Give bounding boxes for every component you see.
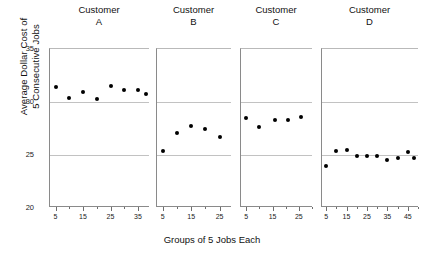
- x-tick-mark: [367, 207, 368, 211]
- x-tick-mark: [56, 207, 57, 211]
- gridline: [322, 102, 418, 103]
- x-tick-label: 25: [107, 213, 115, 220]
- panel-customer-b: 51525CustomerB: [156, 48, 231, 207]
- x-tick-label: 25: [363, 213, 371, 220]
- panel-title-line-1: Customer: [321, 4, 418, 16]
- x-tick-mark: [387, 207, 388, 211]
- panel-title: CustomerC: [240, 4, 312, 28]
- data-point: [175, 131, 179, 135]
- x-tick-label: 15: [343, 213, 351, 220]
- data-point: [136, 88, 140, 92]
- data-point: [406, 150, 410, 154]
- x-tick-mark: [357, 207, 358, 209]
- data-point: [203, 127, 207, 131]
- gridline: [50, 102, 149, 103]
- data-point: [144, 92, 148, 96]
- x-tick-label: 5: [54, 213, 58, 220]
- x-tick-mark: [83, 207, 84, 211]
- panel-title-line-1: Customer: [156, 4, 231, 16]
- data-point: [67, 96, 71, 100]
- x-tick-mark: [205, 207, 206, 209]
- x-tick-mark: [246, 207, 247, 211]
- data-point: [122, 88, 126, 92]
- data-point: [324, 164, 328, 168]
- data-point: [161, 149, 165, 153]
- x-tick-label: 15: [187, 213, 195, 220]
- x-tick-label: 35: [383, 213, 391, 220]
- x-tick-mark: [69, 207, 70, 209]
- data-point: [218, 135, 222, 139]
- x-tick-mark: [111, 207, 112, 211]
- x-tick-mark: [259, 207, 260, 209]
- x-axis-line: [50, 206, 149, 207]
- panel-title-line-2: A: [49, 16, 149, 28]
- data-point: [334, 149, 338, 153]
- panel-title: CustomerA: [49, 4, 149, 28]
- x-tick-mark: [163, 207, 164, 211]
- gridline: [241, 102, 312, 103]
- x-tick-mark: [326, 207, 327, 211]
- panel-customer-c: 51525CustomerC: [240, 48, 312, 207]
- plot-area: 5152535: [49, 48, 149, 207]
- gridline: [157, 102, 231, 103]
- x-tick-label: 15: [79, 213, 87, 220]
- data-point: [244, 116, 248, 120]
- x-axis-title: Groups of 5 Jobs Each: [0, 234, 424, 245]
- data-point: [81, 90, 85, 94]
- plot-area: 51525: [156, 48, 231, 207]
- data-point: [286, 118, 290, 122]
- x-tick-mark: [273, 207, 274, 211]
- x-tick-label: 35: [134, 213, 142, 220]
- x-tick-mark: [377, 207, 378, 209]
- y-tick-label: 30: [18, 97, 34, 106]
- x-tick-label: 5: [244, 213, 248, 220]
- data-point: [257, 125, 261, 129]
- data-point: [385, 158, 389, 162]
- x-tick-label: 45: [404, 213, 412, 220]
- y-axis-title: Average Dollar Cost of 5 Consecutive Job…: [18, 0, 41, 152]
- data-point: [299, 115, 303, 119]
- data-point: [109, 84, 113, 88]
- x-tick-mark: [191, 207, 192, 211]
- data-point: [189, 124, 193, 128]
- x-tick-mark: [312, 207, 313, 209]
- x-tick-mark: [418, 207, 419, 209]
- panel-title-line-1: Customer: [240, 4, 312, 16]
- x-tick-label: 25: [216, 213, 224, 220]
- chart-figure: Average Dollar Cost of 5 Consecutive Job…: [0, 0, 424, 253]
- panel-title: CustomerD: [321, 4, 418, 28]
- plot-area: 515253545: [321, 48, 418, 207]
- y-tick-label: 20: [18, 203, 34, 212]
- x-tick-mark: [124, 207, 125, 209]
- panel-title: CustomerB: [156, 4, 231, 28]
- x-tick-mark: [398, 207, 399, 209]
- plot-area: 51525: [240, 48, 312, 207]
- y-tick-label: 35: [18, 44, 34, 53]
- data-point: [345, 148, 349, 152]
- x-tick-mark: [220, 207, 221, 211]
- panel-customer-a: 5152535CustomerA: [49, 48, 149, 207]
- y-axis-title-line-2: 5 Consecutive Jobs: [29, 0, 41, 152]
- panel-title-line-2: D: [321, 16, 418, 28]
- x-tick-label: 15: [269, 213, 277, 220]
- x-tick-label: 5: [161, 213, 165, 220]
- x-tick-label: 25: [295, 213, 303, 220]
- data-point: [273, 118, 277, 122]
- x-axis-line: [241, 206, 312, 207]
- gridline: [241, 155, 312, 156]
- gridline: [322, 155, 418, 156]
- panel-title-line-1: Customer: [49, 4, 149, 16]
- panel-title-line-2: C: [240, 16, 312, 28]
- x-tick-mark: [97, 207, 98, 209]
- data-point: [375, 154, 379, 158]
- data-point: [54, 85, 58, 89]
- x-tick-mark: [408, 207, 409, 211]
- x-tick-mark: [347, 207, 348, 211]
- x-tick-label: 5: [324, 213, 328, 220]
- panel-title-line-2: B: [156, 16, 231, 28]
- data-point: [412, 156, 416, 160]
- x-tick-mark: [286, 207, 287, 209]
- y-axis-title-line-1: Average Dollar Cost of: [18, 0, 30, 152]
- panel-customer-d: 515253545CustomerD: [321, 48, 418, 207]
- gridline: [157, 155, 231, 156]
